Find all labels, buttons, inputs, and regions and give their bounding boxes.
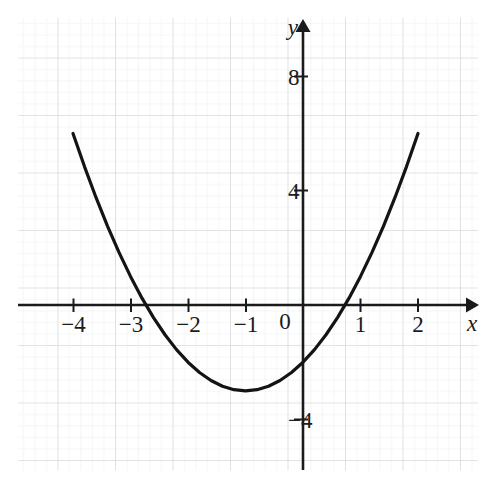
x-tick-label--1: −1 [234, 313, 258, 336]
x-tick-label-1: 1 [355, 313, 367, 336]
y-tick-label--4: −4 [288, 408, 312, 431]
x-tick-label-2: 2 [412, 313, 424, 336]
x-tick-label--4: −4 [61, 313, 85, 336]
y-tick-label-8: 8 [288, 65, 300, 88]
y-tick-label-4: 4 [288, 179, 300, 202]
grid-layer [18, 18, 478, 471]
x-tick-label-0: 0 [279, 310, 291, 333]
grid-background [18, 18, 478, 471]
x-tick-label--2: −2 [176, 313, 200, 336]
y-axis-label: y [288, 16, 298, 39]
x-axis-label: x [467, 312, 477, 335]
plot-area [0, 0, 493, 483]
x-tick-label--3: −3 [119, 313, 143, 336]
graph-figure: −4 −3 −2 −1 0 1 2 8 4 −4 y x [0, 0, 493, 483]
